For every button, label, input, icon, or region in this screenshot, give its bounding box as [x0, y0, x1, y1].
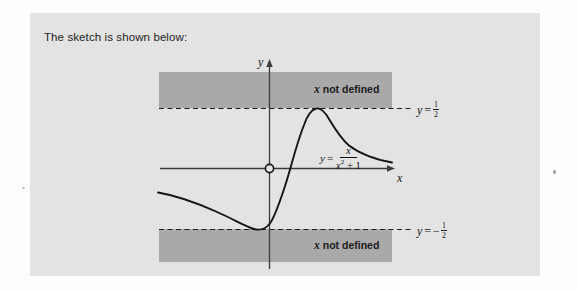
asymptote-lower-eq: = — [424, 224, 431, 239]
asymptote-label-lower: y = − 1 2 — [417, 222, 447, 240]
equation-equals: = — [327, 152, 333, 164]
asymptote-upper-eq: = — [424, 103, 431, 118]
shaded-region-bottom-label: xnot defined — [314, 239, 379, 251]
asymptote-lower-lhs: y — [417, 224, 422, 239]
function-equation-label: y = x x2 + 1 — [320, 145, 361, 171]
asymptote-upper-fraction: 1 2 — [433, 101, 439, 119]
shaded-region-top-text: not defined — [323, 83, 380, 95]
asymptote-lower-sign: − — [433, 224, 440, 239]
asymptote-upper-denominator: 2 — [434, 110, 438, 119]
equation-lhs: y — [320, 152, 325, 164]
y-axis-arrow — [266, 59, 272, 67]
asymptote-upper-lhs: y — [417, 103, 422, 118]
function-sketch-plot — [30, 13, 540, 276]
screenshot-root: The sketch is shown below: xnot define — [0, 0, 577, 291]
asymptote-lower-numerator: 1 — [441, 222, 447, 232]
equation-numerator: x — [340, 145, 357, 158]
shaded-region-bottom-text: not defined — [323, 239, 380, 251]
asymptote-lower-fraction: 1 2 — [441, 222, 447, 240]
equation-denominator-rest: + 1 — [347, 160, 361, 171]
page-speck-1 — [22, 187, 25, 189]
asymptote-label-upper: y = 1 2 — [417, 101, 439, 119]
page-speck-2 — [553, 170, 556, 174]
origin-open-circle-marker — [265, 164, 273, 172]
equation-denominator: x2 + 1 — [336, 158, 361, 171]
figure-panel: The sketch is shown below: xnot define — [30, 13, 540, 276]
asymptote-upper-numerator: 1 — [433, 101, 439, 111]
asymptote-lower-denominator: 2 — [442, 231, 446, 240]
equation-fraction: x x2 + 1 — [336, 145, 361, 171]
x-axis-arrow — [387, 165, 395, 171]
shaded-region-top-label: xnot defined — [314, 83, 379, 95]
y-axis-label: y — [258, 55, 263, 70]
shaded-region-top-var: x — [314, 83, 320, 95]
x-axis-label: x — [397, 171, 402, 186]
equation-denominator-exponent: 2 — [341, 158, 345, 166]
shaded-region-bottom-var: x — [314, 239, 320, 251]
